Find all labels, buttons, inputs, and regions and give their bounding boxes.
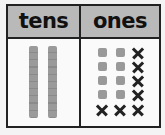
crossed-cube-x-icon	[132, 47, 144, 59]
one-cube	[116, 48, 125, 57]
one-cube	[98, 48, 107, 57]
ten-rod	[29, 46, 38, 118]
one-cube	[116, 76, 125, 85]
column-divider	[79, 6, 81, 126]
place-value-chart: tens ones	[6, 4, 161, 128]
one-cube	[98, 90, 107, 99]
crossed-cube-x-icon	[132, 104, 144, 116]
one-cube	[116, 62, 125, 71]
ones-header: ones	[81, 6, 159, 37]
ten-rod	[48, 46, 57, 118]
tens-header: tens	[8, 6, 79, 37]
crossed-cube-x-icon	[96, 104, 108, 116]
one-cube	[116, 90, 125, 99]
one-cube	[98, 62, 107, 71]
crossed-cube-x-icon	[132, 61, 144, 73]
crossed-cube-x-icon	[132, 75, 144, 87]
crossed-cube-x-icon	[132, 89, 144, 101]
crossed-cube-x-icon	[114, 104, 126, 116]
header-row: tens ones	[8, 6, 159, 39]
one-cube	[98, 76, 107, 85]
